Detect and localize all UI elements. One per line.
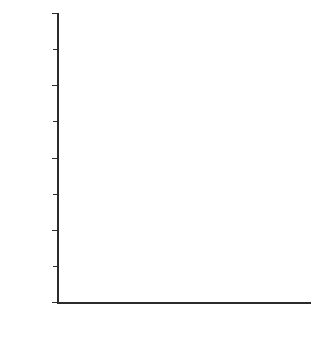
chart-svg [58, 13, 310, 303]
y-axis-line [57, 13, 59, 304]
y-axis-tick-labels [22, 0, 52, 358]
x-axis-line [57, 302, 311, 304]
natural-gas-supply-chart [0, 0, 335, 358]
plot-area [58, 13, 310, 303]
